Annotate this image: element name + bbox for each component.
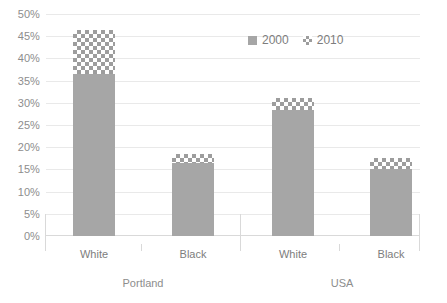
y-axis-tick-label: 10% [0,186,40,198]
legend-item-2010: 2010 [303,33,344,47]
bar-group-usa-white [272,14,314,236]
bar-group-usa-black [370,14,412,236]
x-axis-category-label-portland-black: Black [180,248,207,260]
axis-tick-divider [240,214,241,251]
bar-2000-portland-white [73,74,115,236]
y-axis-tick-label: 15% [0,163,40,175]
checkered-square-icon [303,36,312,45]
chart-legend: 2000 2010 [248,33,343,47]
x-axis-category-label-usa-black: Black [378,248,405,260]
legend-item-2000: 2000 [248,33,289,47]
y-axis-tick-label: 5% [0,208,40,220]
y-axis-tick-label: 45% [0,30,40,42]
bar-2000-usa-black [370,169,412,236]
legend-label-2000: 2000 [262,33,289,47]
x-axis-group-label-portland: Portland [123,277,164,289]
y-axis-tick-label: 25% [0,119,40,131]
y-axis-tick-label: 50% [0,8,40,20]
axis-tick-divider [141,244,142,251]
axis-tick-divider [45,214,46,251]
legend-label-2010: 2010 [317,33,344,47]
axis-tick-divider [339,244,340,251]
x-axis-category-label-usa-white: White [279,248,307,260]
y-axis-tick-label: 30% [0,97,40,109]
y-axis-tick-label: 0% [0,230,40,242]
plot-area [46,14,420,236]
bar-group-portland-white [73,14,115,236]
x-axis-group-label-usa: USA [331,277,354,289]
bar-2000-usa-white [272,110,314,237]
axis-tick-divider [419,214,420,251]
y-axis-tick-label: 35% [0,75,40,87]
bar-group-portland-black [172,14,214,236]
solid-square-icon [248,36,257,45]
y-axis-tick-label: 20% [0,141,40,153]
bar-chart: 50% 45% 40% 35% 30% 25% 20% 15% 10% 5% 0… [0,0,447,303]
bar-2000-portland-black [172,163,214,236]
x-axis-category-label-portland-white: White [80,248,108,260]
y-axis-tick-label: 40% [0,52,40,64]
